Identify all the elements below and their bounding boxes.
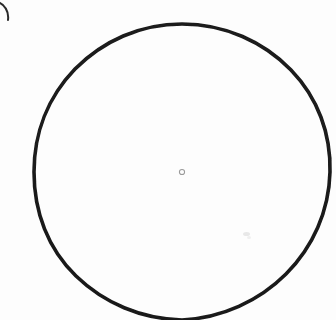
figure-canvas: ) Large hand-drawn circle with a small h… [0, 0, 336, 320]
outer-circle [34, 24, 330, 320]
center-marker-icon [179, 169, 184, 174]
outer-circle-ink-weight-left [34, 172, 182, 320]
outer-circle-ink-weight-right [182, 172, 330, 320]
figure-vector-layer [0, 0, 336, 320]
figure-label-paren-icon [0, 1, 8, 20]
